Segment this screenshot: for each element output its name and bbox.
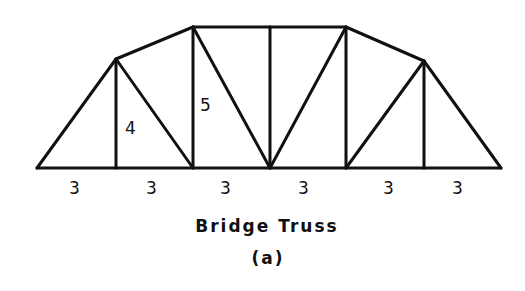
height-label-5: 5: [200, 95, 211, 115]
truss-member-U4-L3: [270, 27, 346, 168]
figure-title: Bridge Truss: [195, 216, 338, 236]
truss-member-U1-U2: [116, 27, 193, 59]
panel-width-label-4: 3: [298, 178, 309, 198]
truss-member-U5-L4: [346, 61, 424, 168]
panel-width-label-3: 3: [220, 178, 231, 198]
height-label-4: 4: [125, 118, 136, 138]
panel-width-label-5: 3: [383, 178, 394, 198]
truss-members: [37, 27, 501, 168]
panel-width-label-2: 3: [146, 178, 157, 198]
figure-sublabel: (a): [251, 248, 284, 268]
truss-member-U1-L2: [116, 59, 193, 168]
truss-member-U4-U5: [346, 27, 424, 61]
bridge-truss-diagram: 4 5 3 3 3 3 3 3 Bridge Truss (a): [0, 0, 525, 291]
truss-member-U5-L6: [424, 61, 501, 168]
panel-width-label-1: 3: [69, 178, 80, 198]
truss-member-L0-U1: [37, 59, 116, 168]
panel-width-label-6: 3: [452, 178, 463, 198]
